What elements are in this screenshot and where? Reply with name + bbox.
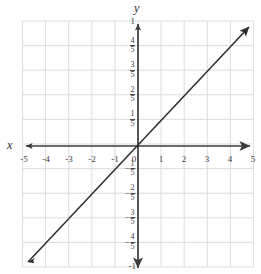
y-tick-label: − 4 5 bbox=[124, 234, 135, 252]
y-tick-fraction: 3 5 bbox=[130, 61, 135, 79]
x-tick-label: 1 bbox=[159, 155, 164, 164]
y-tick-fraction: 4 5 bbox=[130, 37, 135, 55]
coordinate-plane-figure: x y -5 -4 -3 -2 -1 0 1 2 3 4 5 1 4 5 3 5… bbox=[0, 0, 261, 274]
x-tick-label: -4 bbox=[42, 155, 50, 164]
x-tick-label: -1 bbox=[111, 155, 119, 164]
y-tick-label: − 2 5 bbox=[124, 184, 135, 202]
y-tick-label: 3 5 bbox=[130, 61, 135, 79]
y-tick-label: -1 bbox=[129, 262, 137, 271]
x-tick-label: 5 bbox=[251, 155, 256, 164]
y-tick-label: 1 bbox=[131, 17, 136, 26]
y-tick-value: 1 bbox=[131, 16, 136, 26]
y-tick-label: 2 5 bbox=[130, 86, 135, 104]
y-tick-fraction: 2 5 bbox=[130, 184, 135, 202]
x-tick-label: 2 bbox=[182, 155, 187, 164]
x-axis-label: x bbox=[7, 139, 12, 151]
y-tick-label: − 3 5 bbox=[124, 209, 135, 227]
x-tick-label: -5 bbox=[20, 155, 28, 164]
y-tick-label: − 1 5 bbox=[124, 160, 135, 178]
x-tick-label: -3 bbox=[65, 155, 73, 164]
y-tick-label: 1 5 bbox=[130, 111, 135, 129]
y-tick-fraction: 1 5 bbox=[130, 111, 135, 129]
x-tick-label: 3 bbox=[205, 155, 210, 164]
x-tick-label: -2 bbox=[88, 155, 96, 164]
y-tick-fraction: 3 5 bbox=[130, 209, 135, 227]
y-axis-label: y bbox=[134, 2, 139, 14]
y-tick-fraction: 4 5 bbox=[130, 234, 135, 252]
y-tick-label: 4 5 bbox=[130, 37, 135, 55]
y-tick-value: -1 bbox=[129, 261, 137, 271]
y-tick-fraction: 2 5 bbox=[130, 86, 135, 104]
y-tick-fraction: 1 5 bbox=[130, 160, 135, 178]
x-tick-label: 4 bbox=[228, 155, 233, 164]
